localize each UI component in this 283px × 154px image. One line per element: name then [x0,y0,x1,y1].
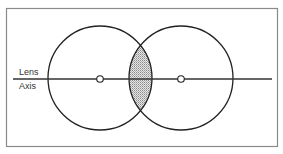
axis-label: Axis [19,81,37,91]
diagram-canvas: Lens Axis [0,0,283,154]
left-center-marker [97,76,104,83]
lens-diagram: Lens Axis [0,0,283,154]
lens-label: Lens [19,67,39,77]
right-center-marker [178,76,185,83]
